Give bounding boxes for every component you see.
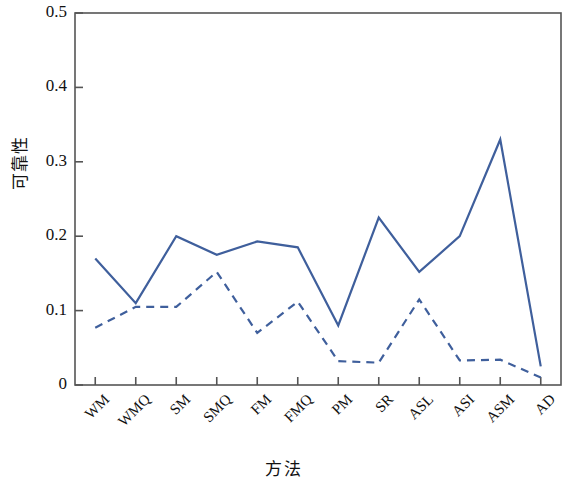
plot-frame xyxy=(75,13,561,385)
y-axis-ticks xyxy=(75,13,83,385)
y-tick-label: 0.2 xyxy=(46,226,67,243)
y-tick-label: 0.1 xyxy=(46,301,67,318)
x-axis-title: 方法 xyxy=(0,455,567,480)
y-tick-label: 0.4 xyxy=(46,77,67,94)
y-tick-label: 0.3 xyxy=(46,152,67,169)
chart-figure: 00.10.20.30.40.5 WMWMQSMSMQFMFMQPMSRASLA… xyxy=(0,0,567,485)
x-axis-ticks xyxy=(95,377,541,385)
y-tick-label: 0.5 xyxy=(46,3,67,20)
data-series-layer xyxy=(95,139,541,377)
y-tick-label: 0 xyxy=(59,375,68,392)
y-axis-title: 可靠性 xyxy=(6,103,31,223)
